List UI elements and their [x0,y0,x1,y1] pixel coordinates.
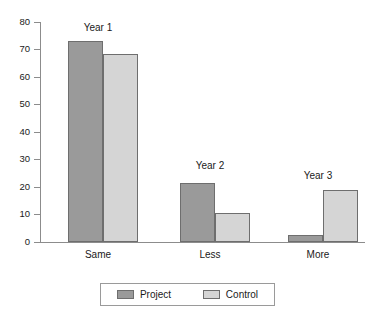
bar-project-less [180,183,215,242]
bar-project-more [288,235,323,242]
legend-label-project: Project [140,289,171,300]
legend-entry-control: Control [203,289,258,300]
legend-swatch-control-icon [203,290,220,299]
x-tick-label-same: Same [63,249,133,260]
y-tick-label-10: 10 [0,209,30,219]
bar-project-same [68,41,103,242]
y-tick-label-40: 40 [0,127,30,137]
y-tick-label-70: 70 [0,44,30,54]
bar-control-more [323,190,358,242]
bar-group-less [180,22,250,242]
legend-swatch-project-icon [117,290,134,299]
y-tick-label-0: 0 [0,237,30,247]
bar-chart: 80 70 60 50 40 30 20 10 0 Year 1 Ye [0,0,374,319]
bar-control-less [215,213,250,242]
legend-label-control: Control [226,289,258,300]
bar-group-same [68,22,138,242]
plot-area [40,22,365,242]
y-tick-label-50: 50 [0,99,30,109]
bar-group-more [288,22,358,242]
legend-entry-project: Project [117,289,171,300]
chart-legend: Project Control [100,283,275,306]
y-tick-label-60: 60 [0,72,30,82]
x-tick-label-less: Less [175,249,245,260]
bar-control-same [103,54,138,242]
annotation-year-1: Year 1 [63,22,133,33]
x-tick-label-more: More [283,249,353,260]
y-tick-label-80: 80 [0,17,30,27]
annotation-year-2: Year 2 [175,160,245,171]
y-tick-label-30: 30 [0,154,30,164]
x-axis-line [40,242,365,243]
y-tick-label-20: 20 [0,182,30,192]
annotation-year-3: Year 3 [283,170,353,181]
